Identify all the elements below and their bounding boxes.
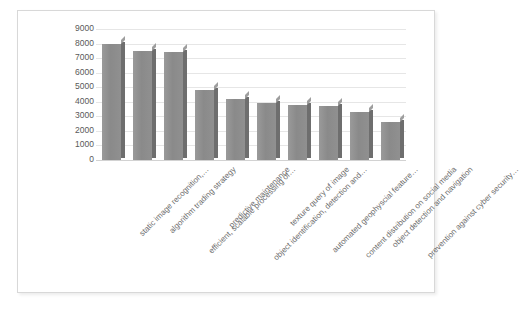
bar-side-face [183,50,187,158]
bar-side-face [245,97,249,158]
bar-side-face [214,88,218,158]
y-axis-tick-label: 2000 [54,126,94,135]
bar-front-face [164,52,183,160]
y-axis-tick-label: 8000 [54,39,94,48]
plot-area [96,29,406,160]
bar-front-face [195,90,214,160]
bar-side-face [307,103,311,158]
bar-front-face [102,44,121,160]
bar-side-face [152,49,156,158]
bar-side-face [369,110,373,158]
bar [102,44,121,160]
y-axis-tick-label: 4000 [54,97,94,106]
bar-front-face [257,103,276,160]
y-axis: 9000800070006000500040003000200010000 [48,11,94,171]
bar-side-face [400,120,404,158]
y-axis-tick-label: 3000 [54,111,94,120]
bar-front-face [350,112,369,160]
bar-front-face [226,99,245,160]
bar-front-face [133,51,152,160]
x-axis: static image recognition,…algorithm trad… [18,161,436,286]
bar [319,106,338,160]
y-axis-tick-label: 9000 [54,24,94,33]
bar-side-face [276,101,280,158]
bar [226,99,245,160]
bar [350,112,369,160]
bar-side-face [121,42,125,158]
bar [195,90,214,160]
bar-front-face [288,105,307,160]
gridline [96,44,406,45]
bar-chart: 9000800070006000500040003000200010000 st… [18,11,436,294]
chart-frame: 9000800070006000500040003000200010000 st… [17,10,435,293]
bar-front-face [319,106,338,160]
y-axis-tick-label: 6000 [54,68,94,77]
bar [288,105,307,160]
bar [164,52,183,160]
bar-side-face [338,104,342,158]
y-axis-tick-label: 7000 [54,53,94,62]
bar [381,122,400,160]
bar [133,51,152,160]
gridline [96,29,406,30]
bar [257,103,276,160]
x-axis-category-label: predictive maintenance [227,165,292,230]
bar-front-face [381,122,400,160]
y-axis-tick-label: 5000 [54,82,94,91]
y-axis-tick-label: 1000 [54,140,94,149]
